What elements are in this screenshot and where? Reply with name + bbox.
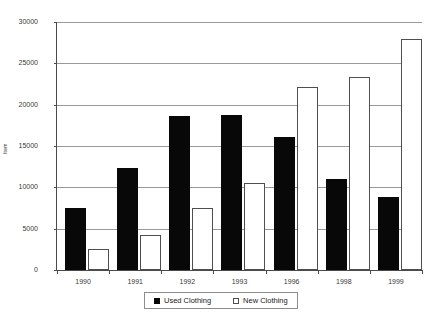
x-axis-label: 1991 bbox=[105, 278, 165, 285]
bar-new-clothing bbox=[349, 77, 370, 270]
bar-new-clothing bbox=[244, 183, 265, 270]
legend-label-new-clothing: New Clothing bbox=[243, 296, 288, 305]
bar-group bbox=[378, 22, 430, 270]
bar-chart: Item 05000100001500020000250003000019901… bbox=[0, 0, 440, 320]
y-axis-tick-label: 5000 bbox=[0, 225, 38, 232]
bar-group bbox=[274, 22, 326, 270]
y-axis-tick-mark bbox=[54, 229, 57, 230]
y-axis-tick-label: 15000 bbox=[0, 142, 38, 149]
bar-used-clothing bbox=[378, 197, 399, 270]
x-axis-tick-mark bbox=[266, 270, 267, 274]
x-axis-label: 1996 bbox=[262, 278, 322, 285]
bar-new-clothing bbox=[88, 249, 109, 270]
x-axis-tick-mark bbox=[370, 270, 371, 274]
bar-group bbox=[221, 22, 273, 270]
y-axis-tick-label: 20000 bbox=[0, 101, 38, 108]
legend-item-used-clothing: Used Clothing bbox=[154, 296, 211, 305]
bar-group bbox=[117, 22, 169, 270]
bar-group bbox=[65, 22, 117, 270]
bar-new-clothing bbox=[297, 87, 318, 270]
bar-used-clothing bbox=[326, 179, 347, 270]
y-axis-tick-label: 30000 bbox=[0, 18, 38, 25]
bar-used-clothing bbox=[117, 168, 138, 271]
x-axis-label: 1990 bbox=[53, 278, 113, 285]
x-axis-tick-mark bbox=[161, 270, 162, 274]
legend-swatch-used-clothing bbox=[154, 298, 160, 304]
y-axis-tick-mark bbox=[54, 187, 57, 188]
x-axis-tick-mark bbox=[109, 270, 110, 274]
bar-used-clothing bbox=[169, 116, 190, 270]
y-axis-tick-mark bbox=[54, 146, 57, 147]
x-axis-label: 1993 bbox=[210, 278, 270, 285]
y-axis-tick-mark bbox=[54, 22, 57, 23]
bar-group bbox=[169, 22, 221, 270]
chart-legend: Used Clothing New Clothing bbox=[144, 292, 298, 309]
y-axis-tick-mark bbox=[54, 63, 57, 64]
y-axis-tick-mark bbox=[54, 105, 57, 106]
x-axis-tick-mark bbox=[318, 270, 319, 274]
bar-used-clothing bbox=[274, 137, 295, 270]
bar-used-clothing bbox=[65, 208, 86, 270]
x-axis-label: 1998 bbox=[314, 278, 374, 285]
legend-swatch-new-clothing bbox=[233, 298, 239, 304]
x-axis-label: 1992 bbox=[157, 278, 217, 285]
y-axis-tick-label: 25000 bbox=[0, 59, 38, 66]
x-axis-tick-mark bbox=[213, 270, 214, 274]
x-axis-tick-mark bbox=[57, 270, 58, 274]
y-axis-tick-label: 0 bbox=[0, 266, 38, 273]
legend-item-new-clothing: New Clothing bbox=[233, 296, 288, 305]
bar-new-clothing bbox=[140, 235, 161, 270]
bar-new-clothing bbox=[401, 39, 422, 270]
bar-group bbox=[326, 22, 378, 270]
x-axis-tick-mark bbox=[422, 270, 423, 274]
x-axis-label: 1999 bbox=[366, 278, 426, 285]
y-axis-tick-label: 10000 bbox=[0, 183, 38, 190]
plot-area: 0500010000150002000025000300001990199119… bbox=[56, 22, 422, 271]
bar-used-clothing bbox=[221, 115, 242, 270]
bar-new-clothing bbox=[192, 208, 213, 270]
legend-label-used-clothing: Used Clothing bbox=[164, 296, 211, 305]
